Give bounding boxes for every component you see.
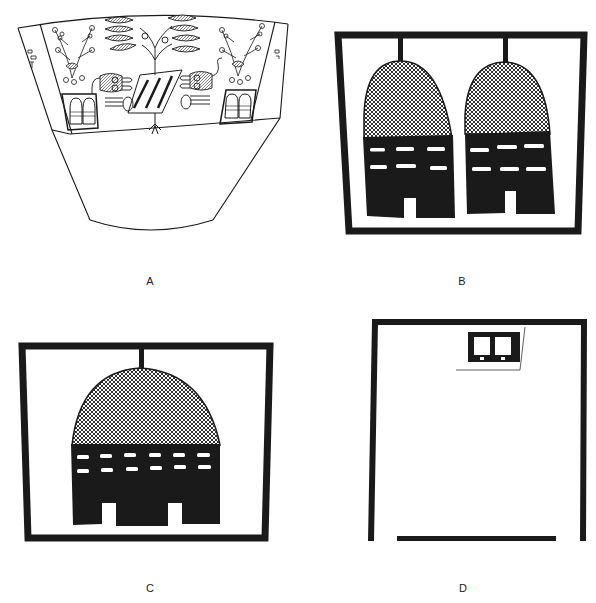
left-glyphs xyxy=(28,50,36,68)
panel-d-bottom-bar xyxy=(397,536,556,541)
panel-label-c: C xyxy=(146,582,154,594)
twin-window-element xyxy=(468,332,520,362)
house-b2-stalk xyxy=(503,37,508,62)
panel-a-vessel xyxy=(18,15,288,230)
right-feline xyxy=(180,58,222,109)
panel-label-d: D xyxy=(459,582,467,594)
house-b1 xyxy=(363,61,455,218)
left-feline xyxy=(92,74,133,112)
house-b2 xyxy=(465,62,555,214)
vessel-right-house-motif xyxy=(220,90,256,124)
vessel-rim xyxy=(18,15,288,28)
house-c-stalk xyxy=(139,348,144,368)
central-tree xyxy=(105,15,200,75)
house-b1-stalk xyxy=(398,37,403,62)
striped-object xyxy=(128,70,182,134)
panel-label-a: A xyxy=(146,275,153,287)
panel-label-b: B xyxy=(458,275,465,287)
band-divider-left xyxy=(40,24,72,134)
panel-b xyxy=(338,35,584,231)
right-flowering-plant xyxy=(220,24,265,85)
vessel-left-house-motif xyxy=(62,94,98,130)
figure-canvas xyxy=(0,0,596,603)
vessel-base xyxy=(90,220,213,230)
panel-c xyxy=(22,346,270,538)
panel-d xyxy=(371,322,584,541)
house-c xyxy=(71,368,220,526)
band-bottom-line xyxy=(52,118,280,134)
left-flowering-plant xyxy=(53,26,95,85)
right-glyphs xyxy=(275,50,279,59)
